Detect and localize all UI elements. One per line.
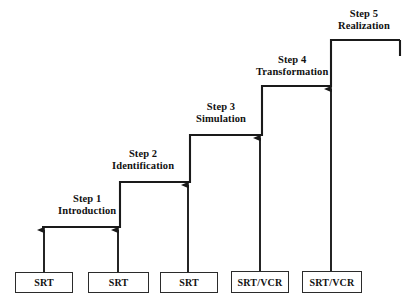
- step-label-4: Step 4Transformation: [256, 54, 328, 77]
- source-box-3: SRT: [160, 272, 218, 293]
- staircase-graphic: [0, 0, 417, 303]
- step-name-3: Simulation: [196, 113, 246, 125]
- step-number-4: Step 4: [256, 54, 328, 66]
- step-label-1: Step 1Introduction: [58, 193, 116, 216]
- step-label-5: Step 5Realization: [338, 8, 390, 31]
- source-box-2: SRT: [88, 272, 149, 293]
- step-name-2: Identification: [112, 160, 174, 172]
- arrow-group: [44, 89, 331, 272]
- step-number-5: Step 5: [338, 8, 390, 20]
- diagram-canvas: Step 1IntroductionStep 2IdentificationSt…: [0, 0, 417, 303]
- step-name-5: Realization: [338, 20, 390, 32]
- step-name-1: Introduction: [58, 205, 116, 217]
- step-number-1: Step 1: [58, 193, 116, 205]
- step-number-3: Step 3: [196, 101, 246, 113]
- step-name-4: Transformation: [256, 66, 328, 78]
- source-box-5: SRT/VCR: [302, 271, 362, 293]
- source-box-1: SRT: [15, 272, 73, 293]
- step-number-2: Step 2: [112, 148, 174, 160]
- step-label-2: Step 2Identification: [112, 148, 174, 171]
- step-label-3: Step 3Simulation: [196, 101, 246, 124]
- source-box-4: SRT/VCR: [231, 271, 289, 293]
